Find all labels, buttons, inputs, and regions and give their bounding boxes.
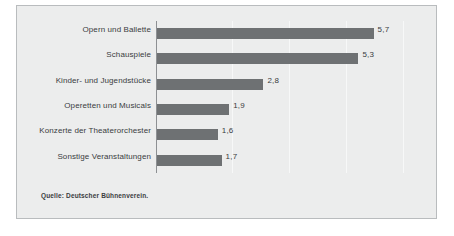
bar-row: Operetten und Musicals1,9 (156, 97, 424, 122)
bar-row: Kinder- und Jugendstücke2,8 (156, 72, 424, 97)
category-label: Sonstige Veranstaltungen (57, 152, 151, 161)
bar (157, 155, 222, 166)
category-label: Schauspiele (106, 50, 151, 59)
bar-rows: Opern und Ballette5,7Schauspiele5,3Kinde… (156, 21, 424, 173)
bar-row: Opern und Ballette5,7 (156, 21, 424, 46)
bar-value-label: 5,3 (362, 50, 374, 59)
bar (157, 79, 263, 90)
category-label: Opern und Ballette (82, 25, 151, 34)
bar-row: Konzerte der Theaterorchester1,6 (156, 122, 424, 147)
bar-value-label: 2,8 (267, 76, 279, 85)
bar-row: Sonstige Veranstaltungen1,7 (156, 148, 424, 173)
category-label: Konzerte der Theaterorchester (39, 126, 151, 135)
bar-value-label: 1,9 (233, 101, 245, 110)
source-note: Quelle: Deutscher Bühnenverein. (41, 192, 148, 199)
bar (157, 28, 374, 39)
plot-area: Opern und Ballette5,7Schauspiele5,3Kinde… (156, 21, 424, 173)
bar (157, 129, 218, 140)
category-label: Operetten und Musicals (64, 101, 151, 110)
bar (157, 104, 229, 115)
bar-row: Schauspiele5,3 (156, 46, 424, 71)
category-label: Kinder- und Jugendstücke (56, 76, 151, 85)
chart-figure: Opern und Ballette5,7Schauspiele5,3Kinde… (0, 0, 454, 236)
bar (157, 53, 358, 64)
bar-value-label: 1,6 (222, 126, 234, 135)
chart-panel: Opern und Ballette5,7Schauspiele5,3Kinde… (16, 5, 437, 219)
bar-value-label: 5,7 (378, 25, 390, 34)
bar-value-label: 1,7 (226, 152, 238, 161)
